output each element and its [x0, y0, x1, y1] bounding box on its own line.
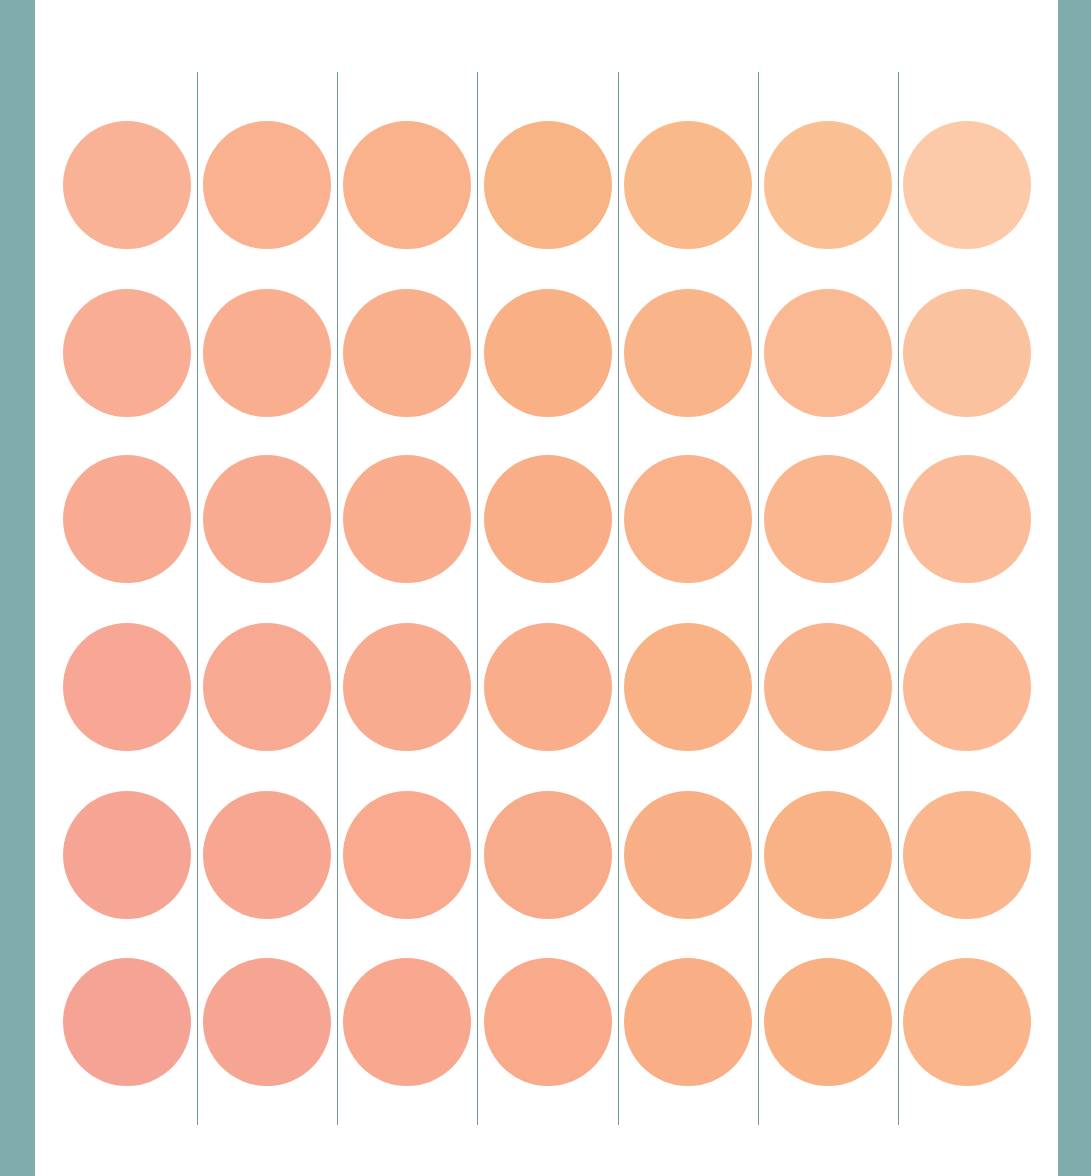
circle [903, 791, 1031, 919]
circle [343, 121, 471, 249]
circle [63, 455, 191, 583]
circle [203, 289, 331, 417]
circle [343, 623, 471, 751]
circle [484, 623, 612, 751]
circle [343, 791, 471, 919]
divider-line [618, 72, 619, 1125]
circle [63, 623, 191, 751]
circle [903, 623, 1031, 751]
circle [624, 289, 752, 417]
circle [203, 121, 331, 249]
circle [484, 121, 612, 249]
circle [203, 455, 331, 583]
circle [903, 289, 1031, 417]
circle [63, 121, 191, 249]
teal-frame-left [0, 0, 35, 1176]
circle [203, 623, 331, 751]
circle [343, 289, 471, 417]
circle [203, 791, 331, 919]
circle [903, 121, 1031, 249]
divider-line [758, 72, 759, 1125]
circle [764, 958, 892, 1086]
divider-line [898, 72, 899, 1125]
circle [624, 455, 752, 583]
circle [484, 791, 612, 919]
circle [624, 121, 752, 249]
circle [764, 455, 892, 583]
circle [484, 455, 612, 583]
circle [343, 958, 471, 1086]
circle [624, 958, 752, 1086]
circle [343, 455, 471, 583]
circle [63, 958, 191, 1086]
divider-line [337, 72, 338, 1125]
circle [624, 791, 752, 919]
circle [484, 289, 612, 417]
circle [203, 958, 331, 1086]
teal-frame-right [1058, 0, 1091, 1176]
circle [764, 791, 892, 919]
circle [903, 455, 1031, 583]
circle [764, 289, 892, 417]
circle [624, 623, 752, 751]
divider-line [477, 72, 478, 1125]
circle [63, 791, 191, 919]
circle [63, 289, 191, 417]
circle [764, 121, 892, 249]
divider-line [197, 72, 198, 1125]
circle [484, 958, 612, 1086]
circle [903, 958, 1031, 1086]
circle [764, 623, 892, 751]
